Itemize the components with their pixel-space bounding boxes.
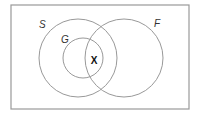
intersection-marker: X xyxy=(91,55,98,66)
set-f-label: F xyxy=(154,18,161,29)
universe-rectangle xyxy=(11,5,189,109)
set-s-circle xyxy=(39,19,117,97)
set-g-label: G xyxy=(61,34,69,45)
venn-diagram: S G F X xyxy=(0,0,205,119)
set-s-label: S xyxy=(39,19,46,30)
